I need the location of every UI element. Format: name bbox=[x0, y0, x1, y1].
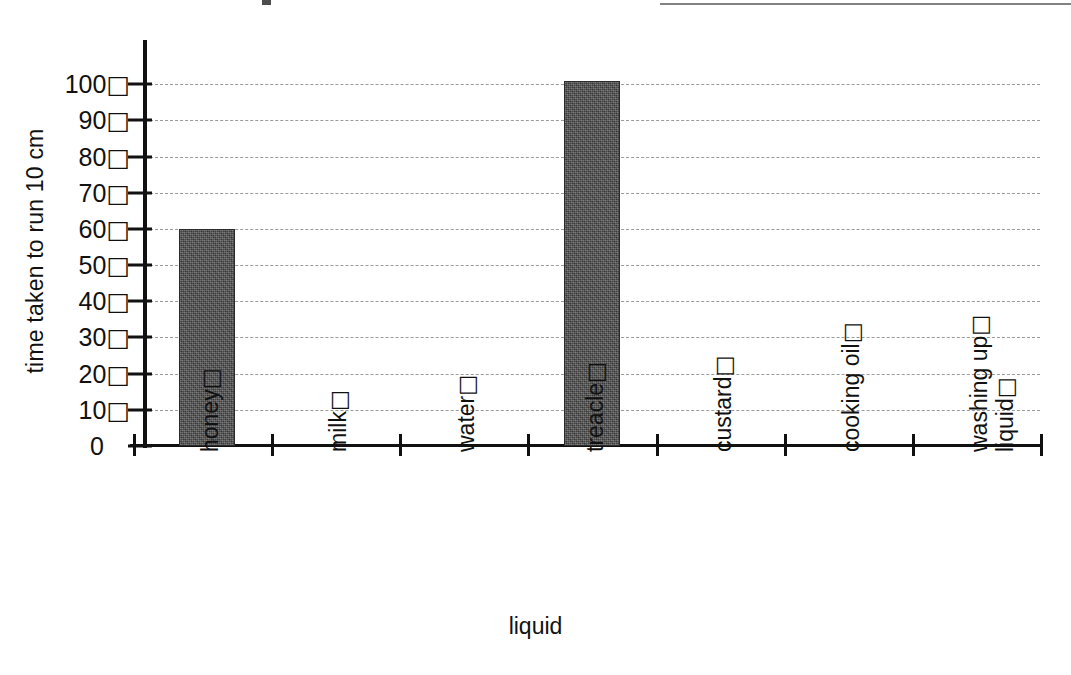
x-category-label: water□ bbox=[455, 375, 478, 452]
y-tick-label: 20□ bbox=[79, 361, 130, 386]
y-tick-label-value: 50 bbox=[79, 253, 107, 278]
missing-glyph-box-icon: □ bbox=[200, 369, 222, 390]
missing-glyph-box-icon: □ bbox=[328, 390, 350, 411]
y-tick-label-value: 20 bbox=[79, 361, 107, 386]
y-tick-label-value: 70 bbox=[79, 180, 107, 205]
missing-glyph-box-icon: □ bbox=[841, 323, 863, 344]
x-category-label-text: honey bbox=[197, 389, 223, 452]
missing-glyph-box-icon: □ bbox=[106, 397, 130, 422]
y-tick-label: 90□ bbox=[79, 108, 130, 133]
missing-glyph-box-icon: □ bbox=[106, 361, 130, 386]
missing-glyph-box-icon: □ bbox=[106, 216, 130, 241]
x-axis-category-labels: honey□milk□water□treacle□custard□cooking… bbox=[143, 452, 1040, 612]
y-tick-label: 60□ bbox=[79, 216, 130, 241]
y-tick-label-value: 0 bbox=[90, 434, 104, 459]
scan-rule-artifact bbox=[660, 3, 1071, 5]
x-category-label: honey□ bbox=[199, 369, 222, 452]
missing-glyph-box-icon: □ bbox=[456, 375, 478, 396]
x-category-label-text: water bbox=[453, 396, 479, 452]
y-tick-label-value: 80 bbox=[79, 144, 107, 169]
y-axis-tick-labels: 010□20□30□40□50□60□70□80□90□100□ bbox=[0, 48, 130, 446]
y-tick-label-value: 40 bbox=[79, 289, 107, 314]
missing-glyph-box-icon: □ bbox=[995, 377, 1017, 398]
x-category-label: treacle□ bbox=[584, 362, 607, 452]
y-tick-label: 80□ bbox=[79, 144, 130, 169]
x-category-label-text: cooking oil bbox=[838, 343, 864, 452]
missing-glyph-box-icon: □ bbox=[106, 325, 130, 350]
y-tick-label: 40□ bbox=[79, 289, 130, 314]
x-category-label: cooking oil□ bbox=[840, 323, 863, 452]
x-axis-end-tick bbox=[1040, 434, 1043, 456]
missing-glyph-box-icon: □ bbox=[106, 144, 130, 169]
missing-glyph-box-icon: □ bbox=[969, 315, 991, 336]
y-tick-label: 100□ bbox=[65, 72, 130, 97]
x-category-label-text: washing up bbox=[966, 336, 992, 452]
x-category-label-text: milk bbox=[325, 411, 351, 452]
y-tick-label: 50□ bbox=[79, 253, 130, 278]
chart-page: time taken to run 10 cm 010□20□30□40□50□… bbox=[0, 0, 1071, 675]
y-tick-label-value: 30 bbox=[79, 325, 107, 350]
y-tick-label-value: 90 bbox=[79, 108, 107, 133]
x-category-label: washing up□ bbox=[968, 315, 991, 452]
missing-glyph-box-icon: □ bbox=[106, 108, 130, 133]
x-category-label: custard□ bbox=[712, 356, 735, 452]
x-category-label: milk□ bbox=[327, 390, 350, 452]
x-category-label-text: custard bbox=[710, 377, 736, 452]
missing-glyph-box-icon: □ bbox=[106, 289, 130, 314]
y-tick-label: 10□ bbox=[79, 397, 130, 422]
y-tick-label: 30□ bbox=[79, 325, 130, 350]
missing-glyph-box-icon: □ bbox=[106, 72, 130, 97]
missing-glyph-box-icon: □ bbox=[106, 180, 130, 205]
x-category-label-text: treacle bbox=[582, 383, 608, 452]
missing-glyph-box-icon: □ bbox=[106, 253, 130, 278]
y-tick-label-value: 10 bbox=[79, 397, 107, 422]
y-tick-label-value: 60 bbox=[79, 216, 107, 241]
x-category-label-text: liquid bbox=[992, 398, 1018, 452]
x-category-label: liquid□ bbox=[994, 377, 1017, 452]
cropped-title-fragment bbox=[262, 0, 271, 5]
x-axis-title: liquid bbox=[0, 613, 1071, 640]
missing-glyph-box-icon: □ bbox=[713, 356, 735, 377]
y-tick-label: 0 bbox=[90, 434, 130, 459]
y-tick-label: 70□ bbox=[79, 180, 130, 205]
x-axis-end-tick bbox=[133, 434, 136, 456]
y-tick-label-value: 100 bbox=[65, 72, 107, 97]
missing-glyph-box-icon: □ bbox=[585, 362, 607, 383]
